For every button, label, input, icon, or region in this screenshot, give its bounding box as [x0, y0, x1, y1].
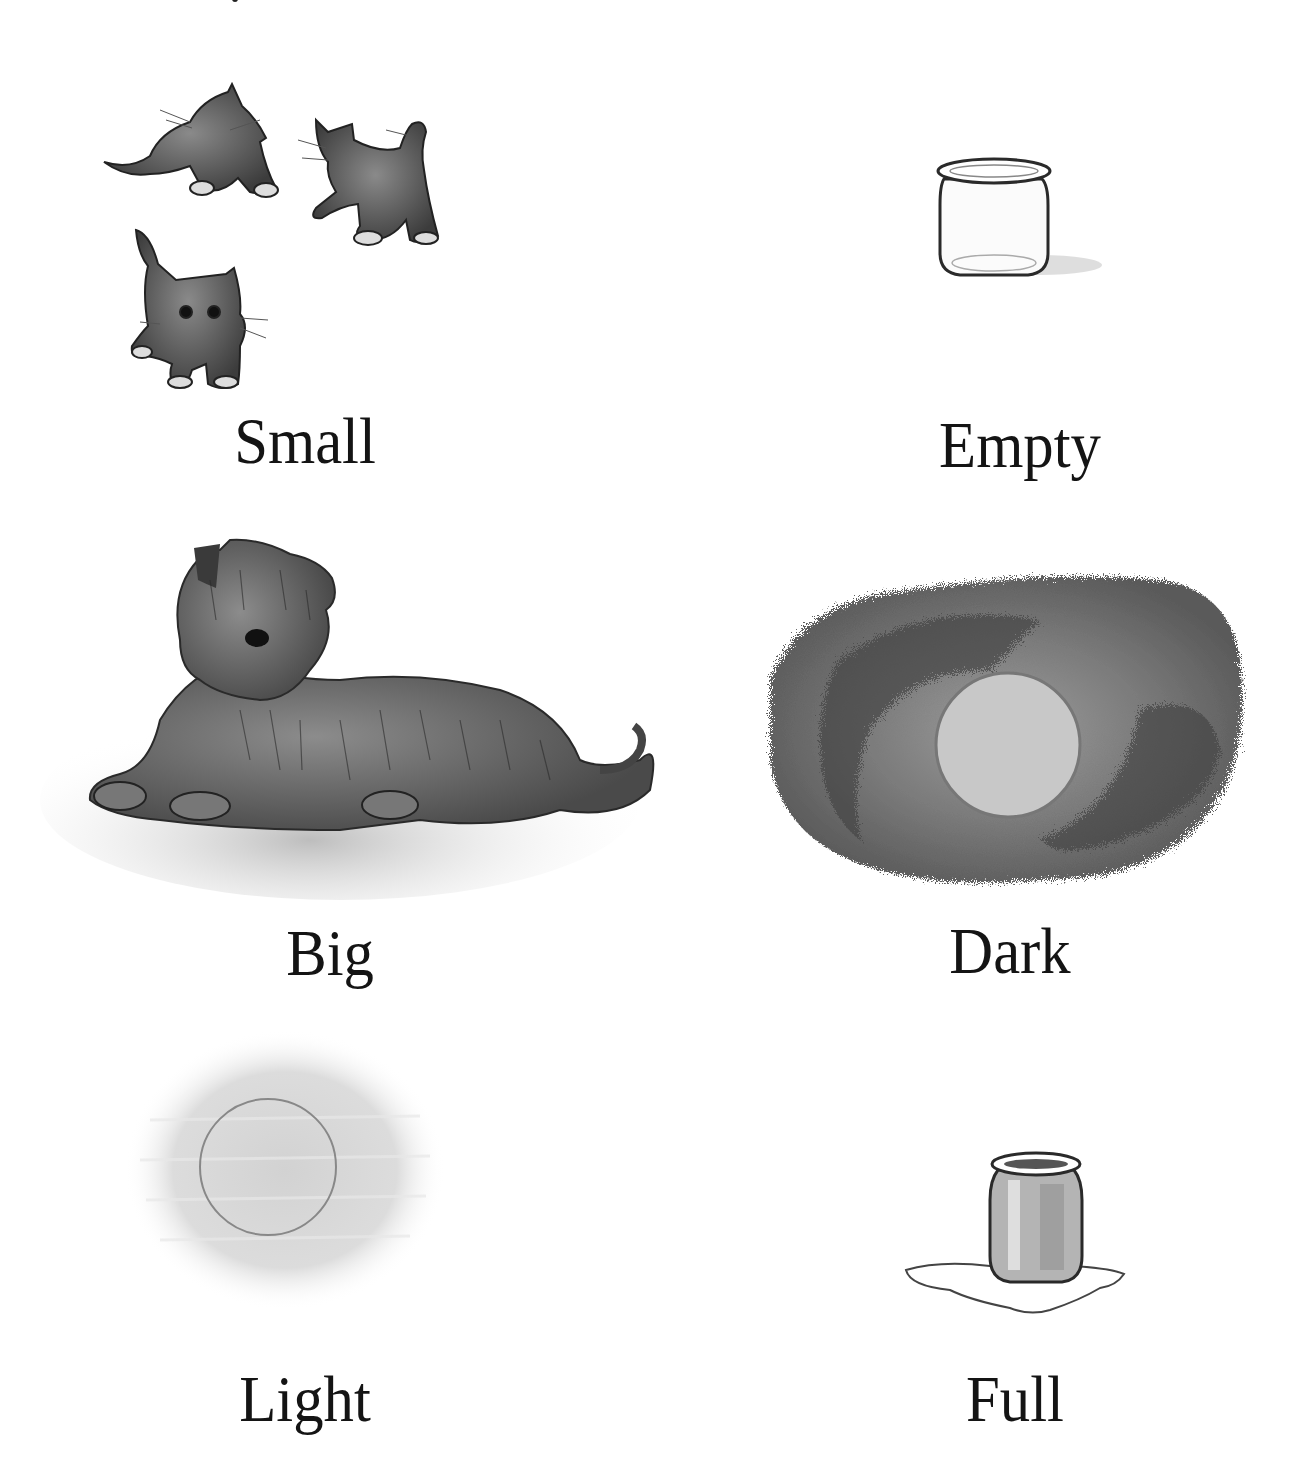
- item-small: Small: [80, 60, 480, 480]
- item-full: Full: [880, 1140, 1150, 1470]
- three-kittens-illustration: [90, 70, 470, 400]
- kitten-1: [104, 84, 278, 197]
- item-light: Light: [110, 1020, 470, 1470]
- word-label: Full: [946, 1366, 1084, 1432]
- light-sun-illustration: [110, 1020, 450, 1320]
- item-big: Big: [40, 520, 700, 990]
- word-label: Big: [256, 920, 403, 986]
- cropped-text-fragment: [232, 0, 238, 2]
- moon: [936, 673, 1080, 817]
- item-dark: Dark: [740, 560, 1270, 990]
- word-label: Small: [208, 408, 401, 474]
- empty-jar-illustration: [910, 145, 1150, 325]
- kitten-2: [298, 120, 438, 245]
- kitten-3: [132, 230, 268, 388]
- item-empty: Empty: [850, 60, 1180, 480]
- dark-night-moon-illustration: [740, 560, 1260, 900]
- word-label: Dark: [918, 918, 1102, 984]
- full-jar-illustration: [880, 1140, 1140, 1320]
- word-label: Empty: [919, 412, 1121, 478]
- word-label: Light: [218, 1366, 393, 1432]
- shaggy-dog-illustration: [40, 520, 690, 900]
